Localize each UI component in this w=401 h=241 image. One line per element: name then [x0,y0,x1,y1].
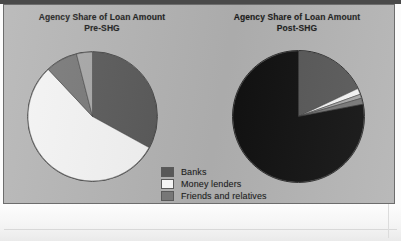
chart-legend: Banks Money lenders Friends and relative… [161,166,267,204]
page-margin-bottom [0,204,401,241]
pie-chart-post-shg [232,50,365,183]
figure-root: Agency Share of Loan Amount Pre-SHG Agen… [0,0,401,241]
chart-title-pre-shg-line1: Agency Share of Loan Amount [39,12,166,22]
legend-item-money-lenders: Money lenders [161,178,267,190]
chart-title-pre-shg: Agency Share of Loan Amount Pre-SHG [12,12,192,34]
legend-item-friends-and-relatives: Friends and relatives [161,190,267,202]
pie-chart-post-shg-svg [233,51,364,182]
legend-item-banks: Banks [161,166,267,178]
legend-label-banks: Banks [181,167,207,177]
chart-title-pre-shg-line2: Pre-SHG [84,23,120,33]
bottom-rule [4,229,397,230]
chart-title-post-shg-line1: Agency Share of Loan Amount [234,12,361,22]
legend-swatch-banks [161,167,174,177]
legend-swatch-friends-and-relatives [161,191,174,201]
chart-title-post-shg: Agency Share of Loan Amount Post-SHG [207,12,387,34]
chart-title-post-shg-line2: Post-SHG [277,23,317,33]
right-rule [388,204,389,238]
pie-chart-pre-shg [27,51,158,182]
legend-label-money-lenders: Money lenders [181,179,241,189]
chart-panel: Agency Share of Loan Amount Pre-SHG Agen… [3,4,395,204]
legend-label-friends-and-relatives: Friends and relatives [181,191,267,201]
pie-chart-pre-shg-svg [28,52,157,181]
legend-swatch-money-lenders [161,179,174,189]
